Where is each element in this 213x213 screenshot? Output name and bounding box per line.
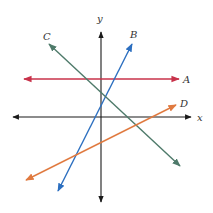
x-axis-label: x: [197, 112, 203, 123]
coordinate-plane-diagram: x y A B C D: [0, 0, 213, 213]
line-c: [49, 44, 180, 166]
y-axis-label: y: [96, 13, 103, 24]
line-a-label: A: [182, 74, 190, 85]
line-d-label: D: [179, 98, 188, 109]
line-b-label: B: [129, 29, 137, 40]
diagram-canvas: x y A B C D: [0, 0, 213, 213]
line-c-label: C: [43, 31, 51, 42]
